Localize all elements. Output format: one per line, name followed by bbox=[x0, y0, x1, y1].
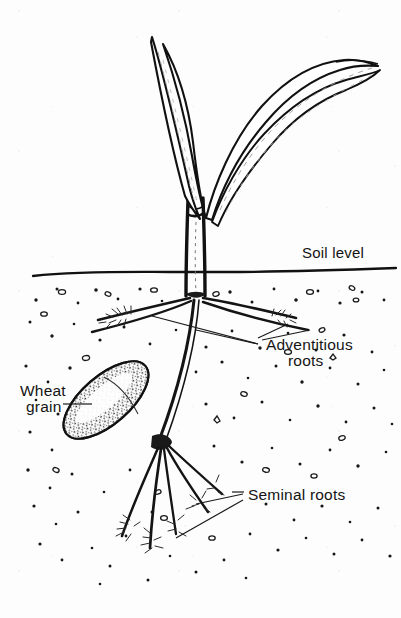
wheat-seedling-diagram: Wheat seedling root structure diagram bbox=[0, 0, 401, 618]
label-wheat-grain-line1: Wheat bbox=[20, 382, 66, 399]
label-wheat-grain-line2: grain bbox=[26, 398, 61, 415]
label-seminal-roots: Seminal roots bbox=[248, 486, 345, 503]
wheat-grain-ellipse bbox=[51, 348, 161, 452]
label-adventitious-roots-line2: roots bbox=[288, 352, 324, 369]
soil-surface-line bbox=[33, 268, 396, 276]
seminal-roots bbox=[116, 446, 224, 553]
leaf-arching-right bbox=[206, 60, 380, 226]
leader-seminal-lower bbox=[176, 500, 243, 538]
label-adventitious-roots-line1: Adventitious bbox=[266, 336, 353, 353]
mesocotyl-axis bbox=[160, 300, 199, 440]
leaf-upright-left bbox=[151, 37, 206, 219]
leader-adventitious-mid bbox=[196, 330, 258, 344]
label-soil-level: Soil level bbox=[302, 244, 364, 261]
adventitious-roots bbox=[92, 292, 308, 332]
